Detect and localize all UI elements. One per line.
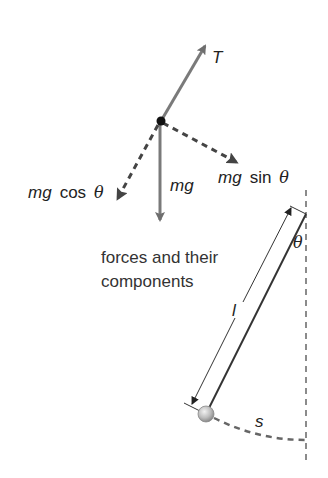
radial-component-arrow (118, 125, 158, 198)
arc-length-label: s (255, 412, 264, 431)
pendulum: l θ s (184, 190, 306, 462)
force-diagram: T mg mg sin θ mg cos θ (28, 46, 289, 220)
length-dimension-line-lower (192, 318, 235, 404)
pendulum-diagram: T mg mg sin θ mg cos θ forces and their … (0, 0, 328, 478)
weight-label: mg (170, 176, 194, 195)
tangential-component-arrow (163, 123, 236, 162)
tangential-component-label: mg sin θ (218, 168, 289, 187)
pendulum-bob (198, 406, 214, 422)
length-label: l (232, 301, 237, 320)
pendulum-string (208, 214, 306, 410)
caption-line2: components (101, 272, 194, 291)
length-extension-top (290, 206, 306, 214)
point-mass-dot (157, 117, 166, 126)
caption: forces and their (101, 248, 219, 267)
radial-component-label: mg cos θ (28, 183, 104, 202)
tension-arrow (161, 46, 205, 121)
angle-label: θ (293, 233, 303, 252)
tension-label: T (212, 48, 224, 67)
length-dimension-line (243, 208, 291, 302)
